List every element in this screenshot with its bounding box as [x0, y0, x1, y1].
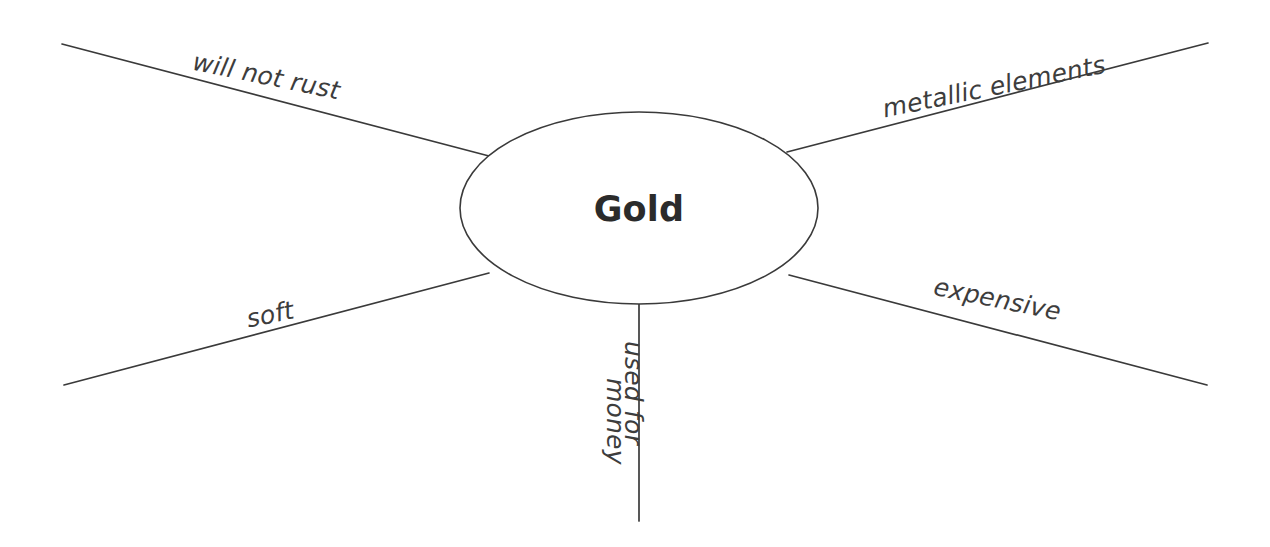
- branch-line-will-not-rust: [62, 44, 489, 156]
- concept-map-canvas: Gold will not rust metallic elements sof…: [0, 0, 1270, 547]
- center-node-label: Gold: [460, 112, 818, 305]
- branch-line-soft: [64, 273, 489, 385]
- branch-label-money: money: [601, 378, 630, 465]
